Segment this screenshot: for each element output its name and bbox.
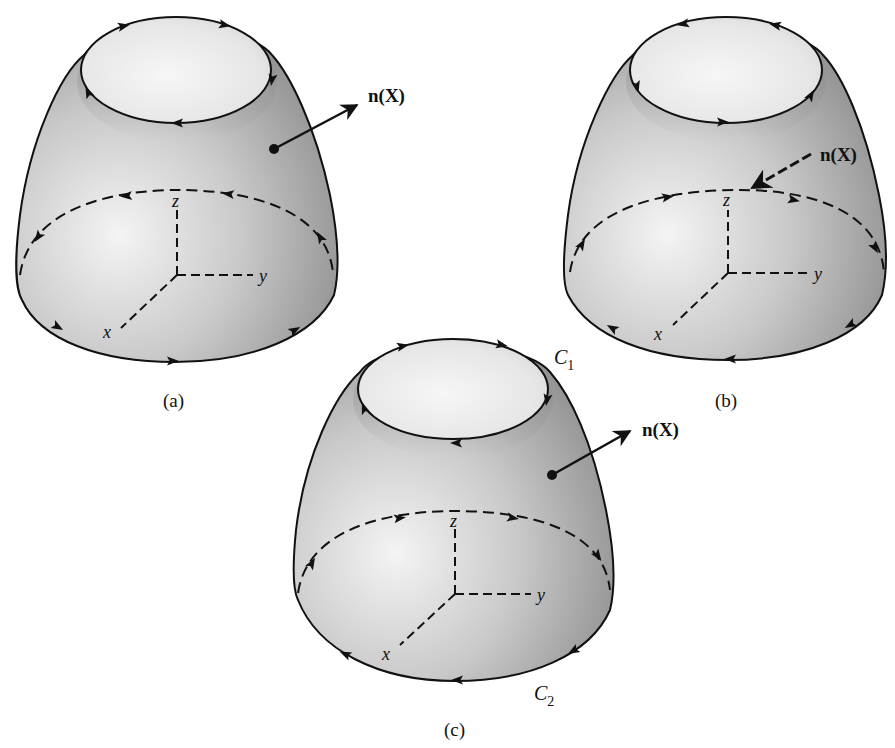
normal-label: n(X) bbox=[642, 419, 679, 441]
axis-label-z: z bbox=[171, 191, 179, 211]
panel-caption: (c) bbox=[444, 719, 465, 741]
axis-label-x: x bbox=[102, 322, 111, 342]
panel-a: z y x n(X) (a) bbox=[16, 17, 405, 412]
panel-c: z y x n(X) C1 C2 (c) bbox=[294, 339, 679, 741]
axis-label-z: z bbox=[722, 190, 730, 210]
top-boundary-curve bbox=[630, 17, 822, 123]
top-boundary-curve-C1 bbox=[358, 339, 548, 439]
normal-label: n(X) bbox=[368, 85, 405, 107]
top-boundary-curve bbox=[81, 17, 271, 123]
panel-caption: (a) bbox=[163, 390, 184, 412]
panel-b: z y x n(X) (b) bbox=[564, 17, 886, 412]
panel-caption: (b) bbox=[715, 390, 737, 412]
axis-label-y: y bbox=[812, 264, 822, 284]
axis-label-x: x bbox=[381, 644, 390, 664]
stokes-surface-diagram: z y x n(X) (a) z y x n bbox=[0, 0, 895, 748]
axis-label-z: z bbox=[449, 511, 457, 531]
axis-label-y: y bbox=[257, 266, 267, 286]
axis-label-y: y bbox=[535, 585, 545, 605]
axis-label-x: x bbox=[653, 324, 662, 344]
curve-label-C1: C1 bbox=[554, 346, 574, 373]
curve-label-C2: C2 bbox=[534, 682, 554, 709]
normal-label: n(X) bbox=[820, 144, 857, 166]
